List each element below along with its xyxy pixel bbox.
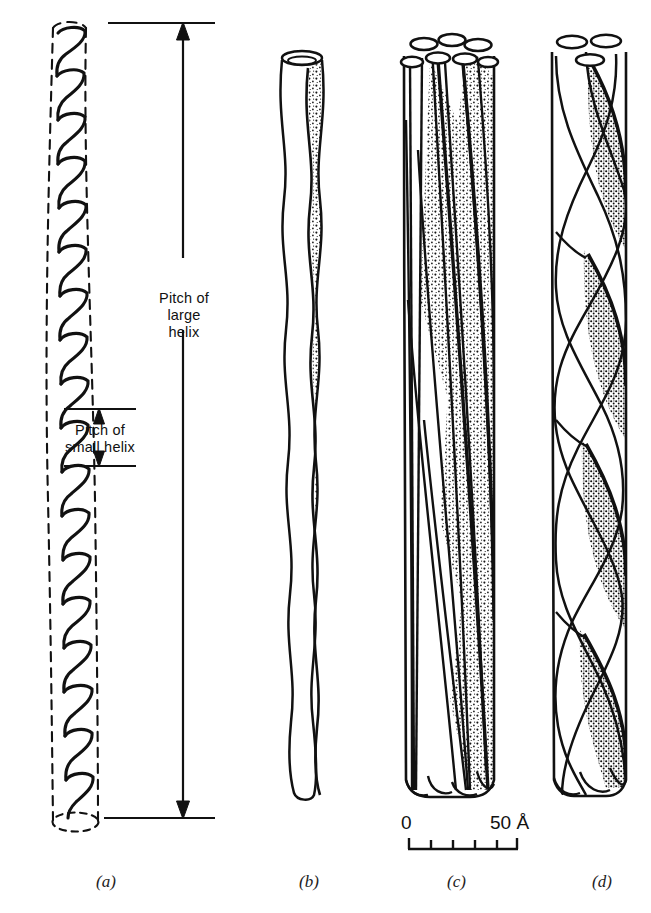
figure-canvas: Pitch of large helix Pitch of small heli…	[0, 0, 651, 913]
panel-label-b: (b)	[299, 872, 319, 892]
scale-end-label: 50 Å	[490, 812, 529, 834]
strand-b-top-bore	[288, 57, 316, 65]
panel-label-a: (a)	[96, 872, 116, 892]
panel-label-c: (c)	[447, 872, 466, 892]
helix-illustration	[0, 0, 651, 913]
panel-label-d: (d)	[592, 872, 612, 892]
scale-start-label: 0	[401, 812, 412, 834]
pitch-of-large-helix-label: Pitch of large helix	[131, 290, 237, 341]
pitch-of-small-helix-label: Pitch of small helix	[48, 422, 152, 456]
